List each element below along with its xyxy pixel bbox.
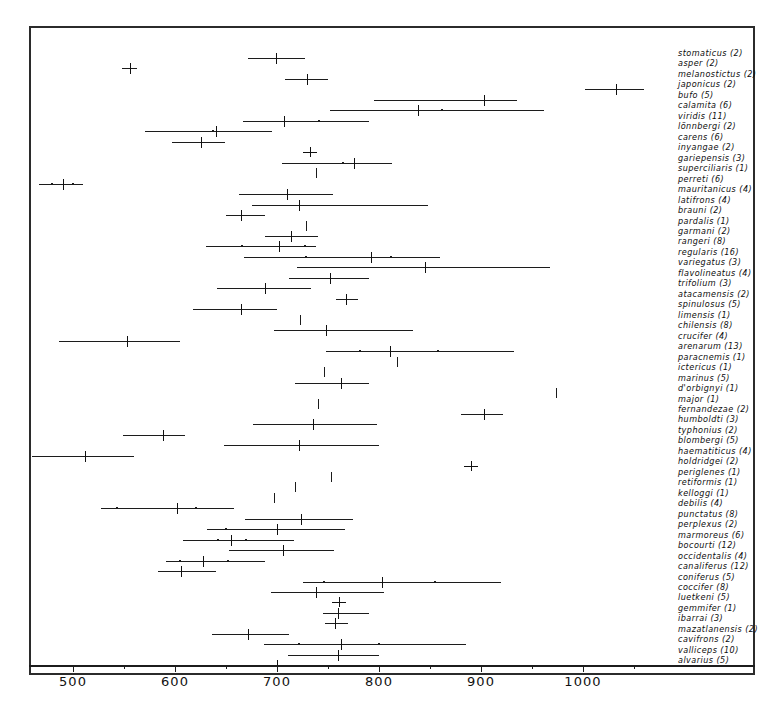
species-label: d'orbignyi (1) [678, 383, 739, 393]
species-label: mazatlanensis (2) [678, 624, 758, 634]
species-label: humboldti (3) [678, 414, 739, 424]
sd-dot-high [318, 120, 320, 122]
species-label: carens (6) [678, 132, 724, 142]
species-label: brauni (2) [678, 205, 722, 215]
species-label: ictericus (1) [678, 362, 732, 372]
sd-dot-high [225, 528, 227, 530]
range-line [330, 110, 544, 111]
species-label: retiformis (1) [678, 477, 738, 487]
species-label: punctatus (8) [678, 509, 738, 519]
x-tick-minor [532, 665, 533, 669]
range-line [374, 100, 517, 101]
range-line [183, 540, 294, 541]
x-tick-label: 900 [467, 674, 495, 689]
species-label: blombergi (5) [678, 435, 739, 445]
range-line [206, 246, 316, 247]
species-label: canaliferus (12) [678, 561, 749, 571]
species-label: inyangae (2) [678, 142, 735, 152]
x-tick-major [481, 665, 482, 672]
x-tick-label: 700 [263, 674, 291, 689]
range-line [585, 89, 644, 90]
range-line [158, 571, 216, 572]
range-line [243, 121, 368, 122]
sd-dot-high [304, 245, 306, 247]
species-label: valliceps (10) [678, 645, 739, 655]
species-label: coniferus (5) [678, 572, 735, 582]
sd-dot-high [434, 581, 436, 583]
x-tick-minor [430, 665, 431, 669]
sd-dot-high [378, 643, 380, 645]
species-label: japonicus (2) [678, 79, 736, 89]
species-label: rangeri (8) [678, 236, 726, 246]
species-label: occidentalis (4) [678, 551, 747, 561]
sd-dot-high [245, 539, 247, 541]
x-tick-minor [226, 665, 227, 669]
range-line [289, 278, 369, 279]
x-tick-label: 800 [365, 674, 393, 689]
species-label: lönnbergi (2) [678, 121, 736, 131]
range-line [239, 194, 333, 195]
range-line [39, 184, 83, 185]
sd-dot-high [390, 256, 392, 258]
x-tick-major [175, 665, 176, 672]
species-label: bufo (5) [678, 90, 714, 100]
species-label: ibarrai (3) [678, 613, 723, 623]
sd-dot-low [179, 560, 181, 562]
sd-dot-low [241, 245, 243, 247]
species-label: paracnemis (1) [678, 352, 746, 362]
species-label: trifolium (3) [678, 278, 732, 288]
x-tick-label: 500 [59, 674, 87, 689]
x-tick-minor [634, 665, 635, 669]
species-label: regularis (16) [678, 247, 739, 257]
x-axis-line [29, 665, 755, 667]
x-tick-major [277, 665, 278, 672]
species-label: marinus (5) [678, 373, 730, 383]
species-label: melanostictus (2) [678, 69, 756, 79]
sd-dot-high [212, 130, 214, 132]
range-line [271, 592, 384, 593]
species-label: flavolineatus (4) [678, 268, 752, 278]
species-label: asper (2) [678, 58, 719, 68]
x-tick-label: 1000 [564, 674, 601, 689]
range-line [274, 330, 413, 331]
range-line [325, 623, 348, 624]
x-tick-minor [328, 665, 329, 669]
plot-area [29, 26, 755, 675]
range-line [253, 424, 377, 425]
range-line [207, 529, 346, 530]
range-line [282, 163, 392, 164]
range-line [226, 215, 265, 216]
species-label: gemmifer (1) [678, 603, 737, 613]
sd-dot-low [217, 539, 219, 541]
species-label: chilensis (8) [678, 320, 733, 330]
species-label: variegatus (3) [678, 257, 741, 267]
range-line [264, 644, 466, 645]
range-line [288, 655, 379, 656]
species-label: kelloggi (1) [678, 488, 729, 498]
range-line [229, 550, 334, 551]
species-label: holdridgei (2) [678, 456, 739, 466]
species-label: perreti (6) [678, 174, 724, 184]
x-tick-major [379, 665, 380, 672]
species-label: coccifer (8) [678, 582, 729, 592]
species-label: cavifrons (2) [678, 634, 735, 644]
species-label: superciliaris (1) [678, 163, 748, 173]
sd-dot-low [323, 581, 325, 583]
sd-dot-low [116, 507, 118, 509]
species-label: atacamensis (2) [678, 289, 750, 299]
x-tick-major [73, 665, 74, 672]
range-line [224, 445, 379, 446]
sd-dot-high [227, 560, 229, 562]
species-label: garmani (2) [678, 226, 731, 236]
species-label: stomaticus (2) [678, 48, 743, 58]
range-line [123, 435, 185, 436]
x-tick-major [583, 665, 584, 672]
range-line [245, 519, 353, 520]
species-label: debilis (4) [678, 498, 723, 508]
species-label: fernandezae (2) [678, 404, 749, 414]
species-label: haematiticus (4) [678, 446, 752, 456]
x-tick-minor [124, 665, 125, 669]
species-label: spinulosus (5) [678, 299, 741, 309]
species-label: latifrons (4) [678, 195, 731, 205]
range-line [101, 508, 235, 509]
